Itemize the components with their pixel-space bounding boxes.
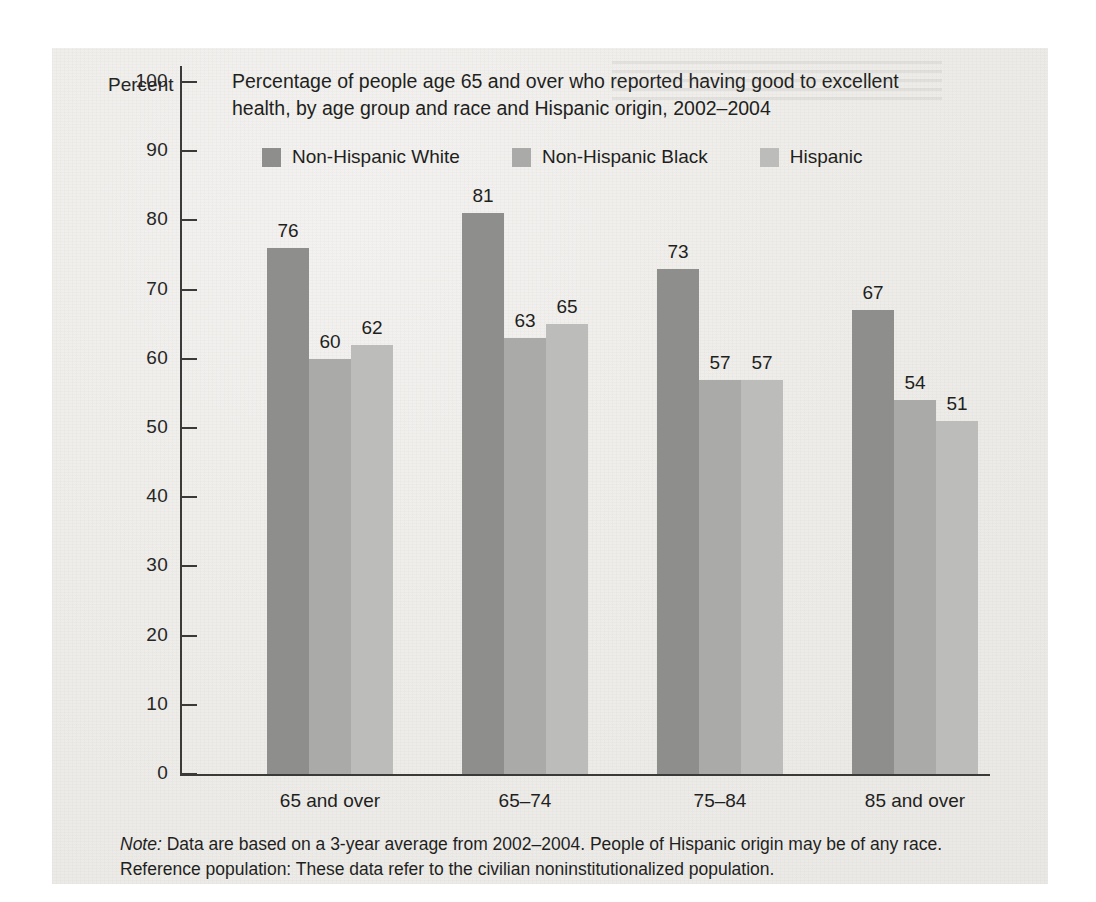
bar <box>657 269 699 774</box>
y-axis-tick-label: 70 <box>116 278 168 300</box>
bar-chart: Percent Percentage of people age 65 and … <box>52 48 1048 884</box>
y-axis-tick-label: 60 <box>116 347 168 369</box>
y-axis-tick-label: 80 <box>116 208 168 230</box>
x-axis-line <box>180 774 990 776</box>
bar <box>309 359 351 774</box>
y-axis-tick-label: 0 <box>116 762 168 784</box>
bar-group: 675451 <box>852 64 978 774</box>
bar-value-label: 65 <box>537 296 597 318</box>
note-line-1: Note: Data are based on a 3-year average… <box>120 832 1030 857</box>
bar <box>504 338 546 774</box>
bar-value-label: 73 <box>648 241 708 263</box>
note-line-2: Reference population: These data refer t… <box>120 857 1030 882</box>
x-axis-category-label: 85 and over <box>805 790 1025 812</box>
y-axis-tick-label: 90 <box>116 139 168 161</box>
y-axis-tick-label: 40 <box>116 485 168 507</box>
bar <box>741 380 783 774</box>
bar-value-label: 62 <box>342 317 402 339</box>
bar <box>462 213 504 774</box>
bar <box>351 345 393 774</box>
bar-value-label: 81 <box>453 185 513 207</box>
x-axis-category-label: 75–84 <box>610 790 830 812</box>
bar-value-label: 54 <box>885 372 945 394</box>
bar-value-label: 76 <box>258 220 318 242</box>
y-axis-tick-label: 50 <box>116 416 168 438</box>
bar-group: 735757 <box>657 64 783 774</box>
bar-value-label: 51 <box>927 393 987 415</box>
bar-group: 816365 <box>462 64 588 774</box>
note-line-1-text: Data are based on a 3-year average from … <box>162 834 942 854</box>
bar <box>267 248 309 774</box>
scanned-page-sheet: Percent Percentage of people age 65 and … <box>52 48 1048 884</box>
bar <box>894 400 936 774</box>
bar-value-label: 57 <box>732 352 792 374</box>
bar <box>546 324 588 774</box>
bar-value-label: 67 <box>843 282 903 304</box>
plot-area: 766062816365735757675451 <box>182 64 990 774</box>
y-axis-tick-label: 10 <box>116 693 168 715</box>
note-label: Note: <box>120 834 162 854</box>
bar <box>699 380 741 774</box>
x-axis-category-label: 65–74 <box>415 790 635 812</box>
chart-note: Note: Data are based on a 3-year average… <box>120 832 1030 882</box>
y-axis-tick-label: 30 <box>116 554 168 576</box>
x-axis-category-label: 65 and over <box>220 790 440 812</box>
bar-group: 766062 <box>267 64 393 774</box>
y-axis-tick-label: 100 <box>116 70 168 92</box>
bar <box>936 421 978 774</box>
y-axis-tick-label: 20 <box>116 624 168 646</box>
